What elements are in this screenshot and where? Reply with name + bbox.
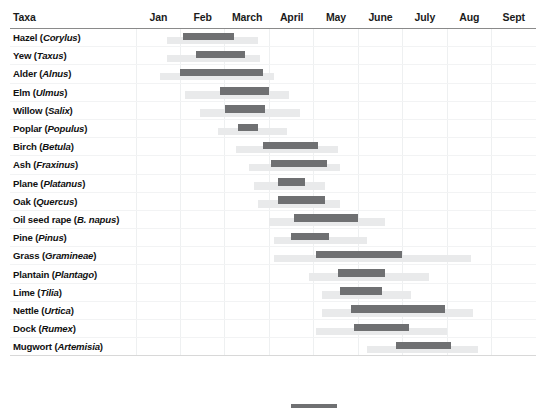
- taxon-paren-close: ): [84, 123, 87, 134]
- month-cell: [314, 83, 358, 101]
- month-cell: [181, 338, 225, 356]
- taxon-label: Nettle (Urtica): [10, 301, 136, 319]
- month-cell: [314, 174, 358, 192]
- column-header-july: July: [403, 8, 447, 29]
- column-header-sept: Sept: [491, 8, 536, 29]
- month-cell: [136, 101, 180, 119]
- month-cell: [269, 283, 313, 301]
- taxon-label: Plane (Platanus): [10, 174, 136, 192]
- taxon-common-name: Ash (: [13, 159, 36, 170]
- month-cell: [269, 229, 313, 247]
- taxon-common-name: Plantain (: [13, 269, 55, 280]
- month-cell: [491, 29, 536, 47]
- month-cell: [491, 265, 536, 283]
- table-row: Yew (Taxus): [10, 47, 536, 65]
- month-cell: [181, 65, 225, 83]
- taxon-label: Poplar (Populus): [10, 119, 136, 137]
- month-cell: [403, 156, 447, 174]
- taxon-paren-close: ): [82, 178, 85, 189]
- month-cell: [136, 229, 180, 247]
- month-cell: [491, 301, 536, 319]
- month-cell: [314, 101, 358, 119]
- taxon-label: Ash (Fraxinus): [10, 156, 136, 174]
- taxon-paren-close: ): [68, 68, 71, 79]
- taxon-latin-name: Fraxinus: [36, 159, 75, 170]
- month-cell: [447, 301, 491, 319]
- month-cell: [314, 301, 358, 319]
- taxon-label: Yew (Taxus): [10, 47, 136, 65]
- month-cell: [314, 229, 358, 247]
- taxon-paren-close: ): [63, 50, 66, 61]
- month-cell: [225, 47, 269, 65]
- month-cell: [181, 247, 225, 265]
- month-cell: [447, 265, 491, 283]
- month-cell: [181, 29, 225, 47]
- month-cell: [447, 192, 491, 210]
- taxon-latin-name: Urtica: [44, 305, 70, 316]
- table-header: Taxa Jan Feb March April May June July A…: [10, 8, 536, 29]
- taxon-common-name: Dock (: [13, 323, 41, 334]
- taxon-label: Dock (Rumex): [10, 320, 136, 338]
- column-header-june: June: [358, 8, 402, 29]
- month-cell: [136, 192, 180, 210]
- taxon-label: Lime (Tilia): [10, 283, 136, 301]
- taxon-latin-name: Taxus: [37, 50, 64, 61]
- table-row: Hazel (Corylus): [10, 29, 536, 47]
- taxon-common-name: Plane (: [13, 178, 43, 189]
- taxon-paren-close: ): [71, 305, 74, 316]
- month-cell: [314, 29, 358, 47]
- month-cell: [181, 101, 225, 119]
- month-cell: [314, 265, 358, 283]
- taxon-label: Plantain (Plantago): [10, 265, 136, 283]
- month-cell: [403, 210, 447, 228]
- month-cell: [136, 283, 180, 301]
- month-cell: [491, 83, 536, 101]
- taxon-paren-close: ): [64, 87, 67, 98]
- column-header-feb: Feb: [181, 8, 225, 29]
- taxon-paren-close: ): [78, 32, 81, 43]
- taxon-paren-close: ): [74, 196, 77, 207]
- taxon-latin-name: Populus: [48, 123, 85, 134]
- month-cell: [403, 229, 447, 247]
- month-cell: [181, 156, 225, 174]
- month-cell: [403, 29, 447, 47]
- month-cell: [403, 174, 447, 192]
- taxon-label: Oil seed rape (B. napus): [10, 210, 136, 228]
- taxon-latin-name: Quercus: [36, 196, 74, 207]
- month-cell: [358, 29, 402, 47]
- taxon-paren-close: ): [64, 232, 67, 243]
- table-row: Ash (Fraxinus): [10, 156, 536, 174]
- month-cell: [314, 210, 358, 228]
- table-row: Plane (Platanus): [10, 174, 536, 192]
- month-cell: [225, 174, 269, 192]
- month-cell: [403, 119, 447, 137]
- month-cell: [225, 247, 269, 265]
- month-cell: [447, 247, 491, 265]
- month-cell: [358, 138, 402, 156]
- column-header-aug: Aug: [447, 8, 491, 29]
- month-cell: [491, 229, 536, 247]
- month-cell: [491, 247, 536, 265]
- legend: [0, 403, 546, 409]
- month-cell: [225, 138, 269, 156]
- month-cell: [181, 301, 225, 319]
- month-cell: [225, 210, 269, 228]
- month-cell: [269, 301, 313, 319]
- month-cell: [269, 265, 313, 283]
- taxon-common-name: Poplar (: [13, 123, 48, 134]
- month-cell: [358, 265, 402, 283]
- column-header-march: March: [225, 8, 269, 29]
- month-cell: [447, 229, 491, 247]
- month-cell: [447, 29, 491, 47]
- legend-swatch-peak: [291, 404, 337, 408]
- month-cell: [136, 301, 180, 319]
- taxon-label: Pine (Pinus): [10, 229, 136, 247]
- taxon-label: Willow (Salix): [10, 101, 136, 119]
- taxon-paren-close: ): [100, 341, 103, 352]
- month-cell: [269, 65, 313, 83]
- taxon-latin-name: Platanus: [43, 178, 82, 189]
- month-cell: [225, 29, 269, 47]
- month-cell: [225, 65, 269, 83]
- month-cell: [314, 283, 358, 301]
- month-cell: [358, 83, 402, 101]
